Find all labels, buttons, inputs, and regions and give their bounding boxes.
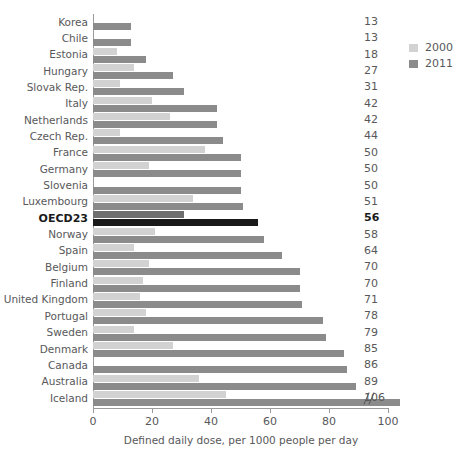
category-label: Canada <box>48 360 88 371</box>
bar-2011 <box>93 137 223 144</box>
bar-2000 <box>93 211 184 218</box>
x-tick-label: 0 <box>90 415 97 428</box>
category-label: Hungary <box>43 66 88 77</box>
bar-2011 <box>93 105 217 112</box>
bar-2011 <box>93 219 258 226</box>
bar-2011 <box>93 236 264 243</box>
bar-2011 <box>93 187 241 194</box>
bar-group-slovak-rep <box>93 79 388 95</box>
bar-group-denmark <box>93 341 388 357</box>
bar-group-norway <box>93 227 388 243</box>
value-label: 71 <box>364 294 378 305</box>
bar-2011 <box>93 334 326 341</box>
bar-2011 <box>93 350 344 357</box>
bar-2000 <box>93 391 226 398</box>
bar-2000 <box>93 129 120 136</box>
bar-group-oecd23 <box>93 210 388 226</box>
bar-group-belgium <box>93 259 388 275</box>
category-label: Australia <box>42 376 88 387</box>
value-label: 31 <box>364 81 378 92</box>
legend-swatch-2011 <box>409 60 418 68</box>
x-tick-label: 20 <box>145 415 159 428</box>
bar-2011 <box>93 23 131 30</box>
bar-2000 <box>93 64 134 71</box>
value-label: 58 <box>364 229 378 240</box>
bar-group-italy <box>93 96 388 112</box>
bar-2000 <box>93 195 193 202</box>
bar-group-australia <box>93 374 388 390</box>
bar-2000 <box>93 244 134 251</box>
value-label: 13 <box>364 16 378 27</box>
bar-group-netherlands <box>93 112 388 128</box>
category-label: Korea <box>58 17 88 28</box>
bar-group-finland <box>93 276 388 292</box>
bar-2000 <box>93 375 199 382</box>
bar-2000 <box>93 162 149 169</box>
x-axis-line <box>93 408 389 409</box>
value-label: 13 <box>364 32 378 43</box>
x-tick <box>270 408 271 413</box>
bar-2000 <box>93 293 140 300</box>
bar-2011 <box>93 383 356 390</box>
category-label: Netherlands <box>24 115 88 126</box>
bar-group-hungary <box>93 63 388 79</box>
value-label: 50 <box>364 147 378 158</box>
bar-2000 <box>93 146 205 153</box>
category-label: Norway <box>48 229 88 240</box>
bar-group-iceland <box>93 390 388 406</box>
category-label: Chile <box>62 33 88 44</box>
value-label: 42 <box>364 114 378 125</box>
bar-group-czech-rep <box>93 128 388 144</box>
bar-group-korea <box>93 14 388 30</box>
bar-2011 <box>93 366 347 373</box>
bar-2011 <box>93 203 243 210</box>
legend-label-2000: 2000 <box>425 41 453 54</box>
bar-2000 <box>93 48 117 55</box>
bar-group-spain <box>93 243 388 259</box>
bar-group-united-kingdom <box>93 292 388 308</box>
bar-2011 <box>93 285 300 292</box>
category-label: Slovenia <box>43 180 88 191</box>
value-label: 64 <box>364 245 378 256</box>
bar-2011 <box>93 317 323 324</box>
category-label: Slovak Rep. <box>27 82 88 93</box>
value-label: 42 <box>364 98 378 109</box>
value-label: 18 <box>364 49 378 60</box>
category-label: United Kingdom <box>4 294 88 305</box>
bar-2011 <box>93 39 131 46</box>
value-label: 44 <box>364 130 378 141</box>
bar-2000 <box>93 342 173 349</box>
bar-2011 <box>93 88 184 95</box>
category-label: Estonia <box>49 49 88 60</box>
x-tick-label: 60 <box>263 415 277 428</box>
bar-2000 <box>93 309 146 316</box>
bar-group-slovenia <box>93 178 388 194</box>
category-label: Italy <box>65 98 88 109</box>
category-label: Belgium <box>45 262 88 273</box>
bar-2000 <box>93 277 143 284</box>
bar-group-germany <box>93 161 388 177</box>
x-tick <box>329 408 330 413</box>
bar-group-france <box>93 145 388 161</box>
value-label: 79 <box>364 327 378 338</box>
plot-area <box>93 14 388 406</box>
x-axis-title: Defined daily dose, per 1000 people per … <box>93 434 389 446</box>
bar-2011 <box>93 56 146 63</box>
bar-2011 <box>93 268 300 275</box>
x-tick-label: 80 <box>322 415 336 428</box>
category-label: Czech Rep. <box>30 131 88 142</box>
bar-2011 <box>93 301 302 308</box>
bar-2011 <box>93 399 400 406</box>
value-label: 50 <box>364 163 378 174</box>
value-label: 89 <box>364 376 378 387</box>
value-label: 106 <box>364 392 385 403</box>
x-tick <box>388 408 389 413</box>
bar-group-estonia <box>93 47 388 63</box>
value-label: 51 <box>364 196 378 207</box>
bar-2011 <box>93 154 241 161</box>
value-label: 50 <box>364 180 378 191</box>
category-label: Luxembourg <box>23 196 88 207</box>
bar-2011 <box>93 72 173 79</box>
value-label: 85 <box>364 343 378 354</box>
bar-group-canada <box>93 357 388 373</box>
